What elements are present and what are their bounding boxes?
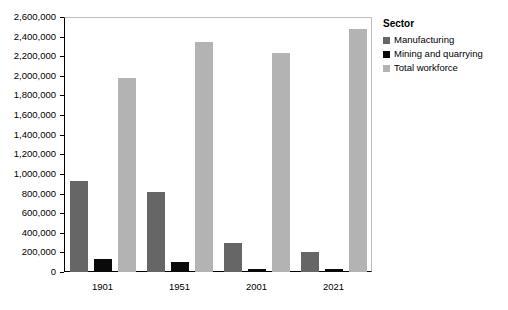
y-axis-tick-label: 2,200,000 [14,50,56,61]
bar[interactable] [248,269,266,272]
legend-item-label: Manufacturing [394,34,454,46]
y-axis-tick-label: 0 [51,266,56,277]
y-axis-tick-label: 200,000 [22,246,56,257]
bar[interactable] [325,269,343,272]
x-axis-tick-label: 2001 [246,281,267,292]
bar[interactable] [272,53,290,272]
bar-group [64,17,141,272]
y-axis-tick-label: 2,400,000 [14,31,56,42]
y-axis-tick-label: 2,000,000 [14,70,56,81]
x-axis: 1901195120012021 [64,273,372,297]
bar-chart: 0200,000400,000600,000800,0001,000,0001,… [0,0,508,310]
bar[interactable] [147,192,165,272]
y-axis-tick-label: 2,600,000 [14,11,56,22]
y-axis-tick-label: 600,000 [22,207,56,218]
legend-title: Sector [383,18,505,30]
bar[interactable] [94,259,112,272]
bar[interactable] [171,262,189,272]
legend-item[interactable]: Total workforce [383,62,505,74]
bar[interactable] [70,181,88,272]
bar-group [218,17,295,272]
y-axis-tick-label: 800,000 [22,188,56,199]
y-axis: 0200,000400,000600,000800,0001,000,0001,… [0,17,64,272]
bar[interactable] [195,42,213,272]
y-axis-tick-label: 1,800,000 [14,89,56,100]
legend-swatch-icon [383,51,390,58]
legend-item[interactable]: Manufacturing [383,34,505,46]
legend-swatch-icon [383,65,390,72]
bar[interactable] [301,252,319,272]
legend-item[interactable]: Mining and quarrying [383,48,505,60]
bar-group [141,17,218,272]
legend-item-label: Mining and quarrying [394,48,483,60]
x-axis-tick-label: 2021 [323,281,344,292]
y-axis-tick-label: 1,200,000 [14,148,56,159]
legend-swatch-icon [383,37,390,44]
bar[interactable] [349,29,367,272]
legend-items: ManufacturingMining and quarryingTotal w… [383,34,505,74]
x-axis-tick-label: 1901 [92,281,113,292]
y-axis-tick-label: 400,000 [22,227,56,238]
x-axis-tick-label: 1951 [169,281,190,292]
bar[interactable] [118,78,136,272]
bars-layer [64,17,372,272]
legend: Sector ManufacturingMining and quarrying… [383,18,505,76]
y-axis-tick-label: 1,600,000 [14,109,56,120]
legend-item-label: Total workforce [394,62,458,74]
bar-group [295,17,372,272]
y-axis-tick-label: 1,000,000 [14,168,56,179]
bar[interactable] [224,243,242,272]
y-axis-tick-label: 1,400,000 [14,129,56,140]
